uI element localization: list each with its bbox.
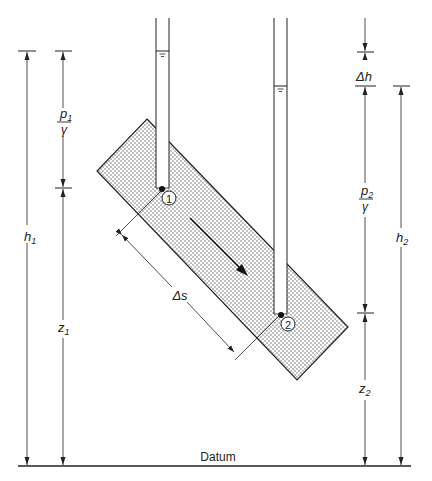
h2-label: h2 bbox=[396, 230, 408, 247]
point-1-label: 1 bbox=[166, 193, 172, 205]
h1-dimension bbox=[18, 51, 36, 465]
piezometer-tube-1 bbox=[156, 18, 169, 188]
z1-label: z1 bbox=[57, 320, 70, 337]
head-diagram: 1 2 Δs h1 p1 γ z1 bbox=[0, 0, 432, 481]
point-2-label: 2 bbox=[285, 319, 291, 331]
point-1-dot bbox=[159, 186, 165, 192]
piezometer-tube-2 bbox=[274, 18, 287, 314]
gamma2-label: γ bbox=[362, 200, 369, 214]
h2-dimension bbox=[393, 86, 410, 465]
datum-label: Datum bbox=[200, 450, 235, 464]
z2-label: z2 bbox=[358, 381, 371, 398]
delta-s-label: Δs bbox=[171, 288, 188, 303]
gamma1-label: γ bbox=[61, 123, 68, 137]
p1-label: p1 bbox=[59, 106, 72, 123]
h1-label: h1 bbox=[24, 229, 36, 246]
p2-label: p2 bbox=[360, 183, 373, 200]
delta-h-label: Δh bbox=[355, 69, 372, 84]
point-2-dot bbox=[278, 312, 284, 318]
